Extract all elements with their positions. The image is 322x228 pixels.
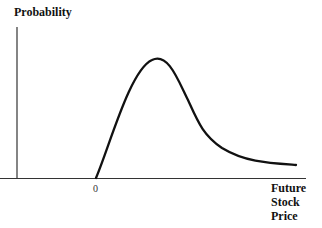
x-axis-label: Future Stock Price (271, 181, 306, 223)
x-tick-zero: 0 (93, 183, 98, 194)
distribution-curve (96, 59, 296, 178)
x-axis-label-line1: Future (271, 181, 306, 195)
x-axis-label-line2: Stock (271, 195, 306, 209)
x-axis-label-line3: Price (271, 209, 306, 223)
